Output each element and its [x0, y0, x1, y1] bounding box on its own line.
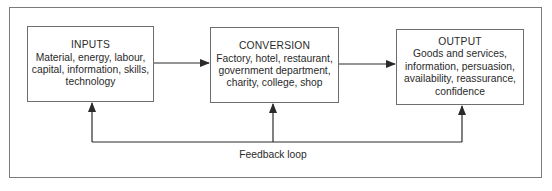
conversion-line: government department,: [218, 65, 330, 77]
inputs-line: Material, energy, labour,: [36, 52, 146, 64]
inputs-title: INPUTS: [71, 39, 110, 51]
inputs-line: capital, information, skills,: [32, 64, 149, 76]
output-line: information, persuasion,: [405, 61, 515, 73]
conversion-line: charity, college, shop: [227, 77, 323, 89]
output-line: Goods and services,: [413, 48, 507, 60]
conversion-box: CONVERSION Factory, hotel, restaurant, g…: [210, 27, 339, 103]
inputs-box: INPUTS Material, energy, labour, capital…: [27, 26, 154, 102]
feedback-loop-label: Feedback loop: [223, 149, 323, 160]
output-line: confidence: [435, 86, 485, 98]
output-box: OUTPUT Goods and services, information, …: [396, 29, 524, 105]
output-line: availability, reassurance,: [404, 73, 516, 85]
conversion-line: Factory, hotel, restaurant,: [216, 53, 333, 65]
conversion-title: CONVERSION: [239, 40, 310, 52]
output-title: OUTPUT: [438, 36, 482, 48]
inputs-line: technology: [66, 76, 116, 88]
